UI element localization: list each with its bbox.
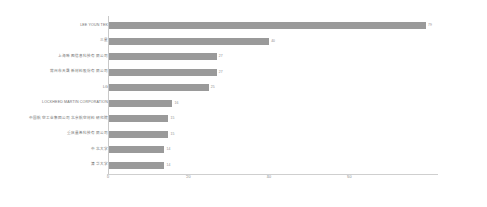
- bar-row: 三星40: [0, 34, 487, 50]
- bar-row: 中北大学14: [0, 142, 487, 158]
- x-axis-tick: 0: [107, 176, 109, 180]
- bar-chart: LEE YOUN TEK79三星40上海晰图信息科技有限公司27常州市天晟新材料…: [0, 0, 487, 207]
- bar-row: LOCKHEED MARTIN CORPORATION16: [0, 96, 487, 112]
- bar[interactable]: [108, 69, 217, 76]
- bar-container: 27: [108, 65, 223, 81]
- x-axis-line: [108, 174, 438, 175]
- bar[interactable]: [108, 53, 217, 60]
- x-axis-tick-labels: 0204060: [0, 176, 487, 190]
- bar-container: 16: [108, 96, 178, 112]
- bar-row: 清华大学14: [0, 158, 487, 174]
- category-label: 清华大学: [4, 163, 108, 167]
- bar-value-label: 27: [219, 71, 223, 74]
- category-label: 中北大学: [4, 148, 108, 152]
- bar-container: 15: [108, 127, 174, 143]
- bar-container: 27: [108, 49, 223, 65]
- bar-container: 15: [108, 111, 174, 127]
- bar[interactable]: [108, 22, 426, 29]
- category-label: 常州市天晟新材料股份有限公司: [4, 70, 108, 74]
- bar-value-label: 15: [171, 133, 175, 136]
- bar[interactable]: [108, 115, 168, 122]
- category-label: 重庆墨希科技有限公司: [4, 132, 108, 136]
- y-axis-line: [108, 16, 109, 174]
- bar-row: 上海晰图信息科技有限公司27: [0, 49, 487, 65]
- bar[interactable]: [108, 38, 269, 45]
- bar-row: LEE YOUN TEK79: [0, 18, 487, 34]
- bar-container: 79: [108, 18, 432, 34]
- bar[interactable]: [108, 100, 172, 107]
- bar-value-label: 79: [428, 24, 432, 27]
- bar[interactable]: [108, 84, 209, 91]
- bar-value-label: 14: [167, 148, 171, 151]
- category-label: LEE YOUN TEK: [4, 24, 108, 28]
- category-label: 中国航空工业集团公司北京航空材料研究院: [4, 117, 108, 121]
- x-axis-tick: 40: [267, 176, 271, 180]
- bar-value-label: 15: [171, 117, 175, 120]
- bar-row: 重庆墨希科技有限公司15: [0, 127, 487, 143]
- category-label: LG: [4, 86, 108, 90]
- x-axis-tick: 20: [186, 176, 190, 180]
- bar-container: 25: [108, 80, 215, 96]
- x-axis-tick: 60: [347, 176, 351, 180]
- x-axis-tick-mark: [267, 174, 268, 176]
- bar-row: 中国航空工业集团公司北京航空材料研究院15: [0, 111, 487, 127]
- bar[interactable]: [108, 162, 164, 169]
- bar[interactable]: [108, 131, 168, 138]
- bar[interactable]: [108, 146, 164, 153]
- category-label: 三星: [4, 39, 108, 43]
- bar-value-label: 40: [271, 40, 275, 43]
- category-label: 上海晰图信息科技有限公司: [4, 55, 108, 59]
- x-axis-tick-mark: [186, 174, 187, 176]
- bar-value-label: 25: [211, 86, 215, 89]
- bar-row: 常州市天晟新材料股份有限公司27: [0, 65, 487, 81]
- bar-rows: LEE YOUN TEK79三星40上海晰图信息科技有限公司27常州市天晟新材料…: [0, 18, 487, 173]
- plot-area: LEE YOUN TEK79三星40上海晰图信息科技有限公司27常州市天晟新材料…: [0, 0, 487, 207]
- bar-value-label: 27: [219, 55, 223, 58]
- x-axis-tick-mark: [347, 174, 348, 176]
- bar-container: 14: [108, 158, 170, 174]
- bar-container: 40: [108, 34, 275, 50]
- x-axis-tick-mark: [107, 174, 108, 176]
- category-label: LOCKHEED MARTIN CORPORATION: [4, 101, 108, 105]
- bar-container: 14: [108, 142, 170, 158]
- bar-value-label: 14: [167, 164, 171, 167]
- bar-row: LG25: [0, 80, 487, 96]
- bar-value-label: 16: [175, 102, 179, 105]
